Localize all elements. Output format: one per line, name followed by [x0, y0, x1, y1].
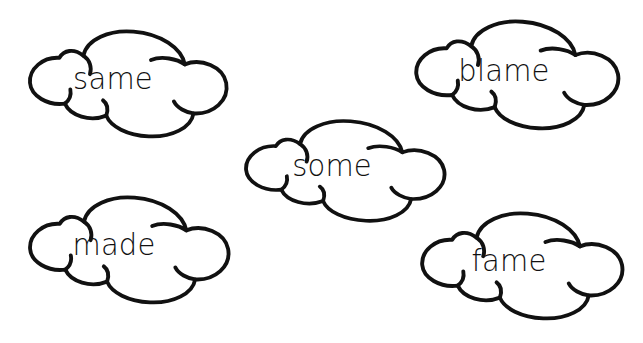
cloud-made: made — [18, 190, 238, 310]
cloud-outline-icon — [18, 24, 236, 144]
cloud-outline-icon — [410, 206, 632, 326]
cloud-outline-icon — [18, 190, 238, 310]
cloud-same: same — [18, 24, 236, 144]
worksheet-canvas: same blame some — [0, 0, 643, 343]
cloud-fame: fame — [410, 206, 632, 326]
